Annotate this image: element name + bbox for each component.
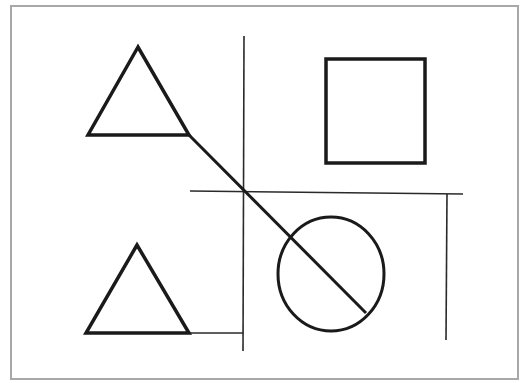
diagram-canvas [0, 0, 527, 383]
vertical-divider-left [243, 36, 244, 351]
vertical-divider-right [446, 194, 447, 340]
